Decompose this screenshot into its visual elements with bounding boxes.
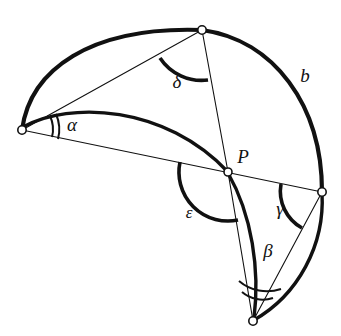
vertex-right <box>318 188 326 196</box>
label-alpha: α <box>67 114 78 135</box>
arc-left-to-p <box>23 112 228 172</box>
label-gamma: γ <box>276 198 284 219</box>
diagram-canvas: α δ ε γ β b P <box>0 0 341 336</box>
angle-marker-delta <box>160 58 208 80</box>
arc-side-b-top-to-right <box>202 30 322 192</box>
vertex-top <box>198 26 206 34</box>
label-beta: β <box>262 240 273 261</box>
angle-marker-alpha-inner <box>50 116 53 137</box>
line-left-through-p-to-right <box>22 130 322 192</box>
vertex-point-p <box>224 168 232 176</box>
angle-marker-beta-outer <box>239 281 281 291</box>
label-epsilon: ε <box>186 203 193 222</box>
angle-marker-alpha-outer <box>56 114 59 139</box>
label-point-p: P <box>236 146 249 167</box>
label-side-b: b <box>300 65 310 86</box>
label-delta: δ <box>173 71 183 92</box>
geometry-figure: α δ ε γ β b P <box>0 0 341 336</box>
vertex-bottom <box>249 317 257 325</box>
vertex-left <box>18 126 26 134</box>
